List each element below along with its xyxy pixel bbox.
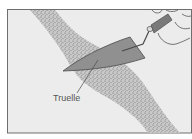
illustration-canvas xyxy=(0,0,192,139)
trowel-illustration: Truelle xyxy=(0,0,192,139)
trowel-label: Truelle xyxy=(53,93,80,103)
